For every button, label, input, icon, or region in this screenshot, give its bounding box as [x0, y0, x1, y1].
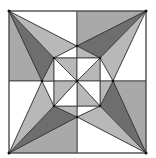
vertex-dot — [8, 10, 11, 13]
vertex-dot — [8, 152, 11, 155]
vertex-dot — [76, 116, 79, 119]
geometric-star-diagram — [0, 0, 156, 158]
vertex-dot — [99, 105, 102, 108]
diagram-svg — [0, 0, 156, 158]
vertex-dot — [112, 80, 115, 83]
vertex-dot — [145, 10, 148, 13]
vertex-dot — [53, 105, 56, 108]
center-dot — [76, 80, 79, 83]
vertex-dot — [145, 152, 148, 155]
vertex-dot — [76, 45, 79, 48]
vertex-dot — [41, 80, 44, 83]
vertex-dot — [53, 57, 56, 60]
vertex-dot — [99, 57, 102, 60]
